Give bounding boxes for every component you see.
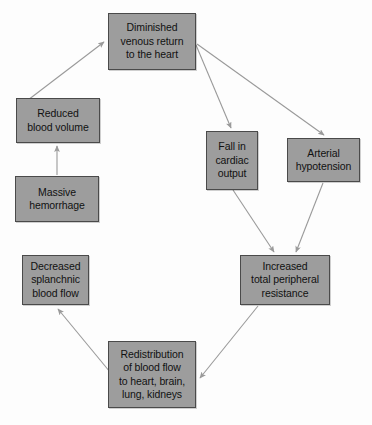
flowchart-diagram: Diminished venous return to the heart Re… (0, 0, 372, 425)
node-diminished-venous-return[interactable]: Diminished venous return to the heart (108, 13, 196, 70)
node-label: Decreased splanchnic blood flow (31, 260, 81, 300)
edge-fall-in-cardiac-output-to-increased-resistance (233, 190, 274, 252)
node-arterial-hypotension[interactable]: Arterial hypotension (287, 138, 360, 182)
node-increased-total-peripheral-resistance[interactable]: Increased total peripheral resistance (240, 255, 330, 305)
edge-diminished-venous-return-to-arterial-hypotension (197, 44, 324, 135)
node-decreased-splanchnic-blood-flow[interactable]: Decreased splanchnic blood flow (22, 255, 89, 305)
node-label: Redistribution of blood flow to heart, b… (119, 348, 185, 402)
node-fall-in-cardiac-output[interactable]: Fall in cardiac output (206, 131, 258, 190)
node-label: Increased total peripheral resistance (251, 260, 319, 300)
node-label: Diminished venous return to the heart (121, 21, 184, 61)
node-massive-hemorrhage[interactable]: Massive hemorrhage (15, 176, 99, 222)
node-label: Arterial hypotension (296, 147, 352, 174)
edge-arterial-hypotension-to-increased-resistance (296, 183, 323, 252)
edge-diminished-venous-return-to-fall-in-cardiac-output (196, 45, 231, 128)
node-label: Reduced blood volume (27, 107, 88, 134)
node-reduced-blood-volume[interactable]: Reduced blood volume (16, 98, 100, 143)
edge-redistribution-to-decreased-splanchnic (58, 309, 110, 372)
edge-increased-resistance-to-redistribution (200, 306, 258, 378)
node-label: Fall in cardiac output (215, 140, 248, 180)
node-label: Massive hemorrhage (29, 186, 85, 213)
node-redistribution-of-blood-flow[interactable]: Redistribution of blood flow to heart, b… (108, 341, 196, 408)
edge-reduced-blood-volume-to-diminished-venous-return (28, 42, 104, 100)
